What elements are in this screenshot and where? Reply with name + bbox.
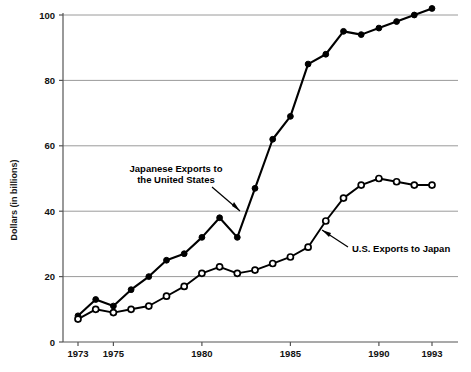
data-point (411, 182, 417, 188)
y-tick-label-40: 40 (44, 206, 55, 217)
data-point (341, 28, 347, 34)
y-tick-label-80: 80 (44, 75, 55, 86)
data-point (128, 287, 134, 293)
x-tick-label-1985: 1985 (280, 348, 302, 359)
data-point (376, 25, 382, 31)
x-tick-label-1975: 1975 (103, 348, 125, 359)
data-point (288, 113, 294, 119)
data-point (181, 283, 187, 289)
y-tick-label-20: 20 (44, 271, 55, 282)
data-point (305, 244, 311, 250)
data-point (110, 310, 116, 316)
x-tick-label-1980: 1980 (191, 348, 212, 359)
data-point (128, 306, 134, 312)
data-point (287, 254, 293, 260)
annotation-text-line1: U.S. Exports to Japan (352, 243, 450, 254)
annotation-text-line1: Japanese Exports to (130, 163, 223, 174)
data-point (429, 6, 435, 12)
y-tick-label-60: 60 (44, 140, 55, 151)
data-point (323, 51, 329, 57)
data-point (376, 176, 382, 182)
data-point (146, 303, 152, 309)
data-point (429, 182, 435, 188)
data-point (305, 61, 311, 67)
x-tick-label-1990: 1990 (368, 348, 389, 359)
chart-canvas: 020406080100 197319751980198519901993 Ja… (0, 0, 471, 372)
data-point (234, 234, 240, 240)
data-point (217, 264, 223, 270)
data-point (199, 234, 205, 240)
data-point (270, 261, 276, 267)
data-point (164, 293, 170, 299)
data-point (199, 270, 205, 276)
data-point (323, 218, 329, 224)
y-tick-label-0: 0 (50, 337, 55, 348)
data-point (394, 19, 400, 25)
data-point (358, 32, 364, 38)
data-point (181, 251, 187, 257)
y-tick-label-100: 100 (39, 10, 55, 21)
data-point (252, 267, 258, 273)
data-point (358, 182, 364, 188)
data-point (93, 306, 99, 312)
data-point (341, 195, 347, 201)
annotation-text-line2: the United States (137, 174, 215, 185)
data-point (217, 215, 223, 221)
data-point (146, 274, 152, 280)
chart-background (0, 0, 471, 372)
y-axis-title: Dollars (in billions) (9, 159, 19, 240)
data-point (270, 136, 276, 142)
data-point (394, 179, 400, 185)
data-point (164, 257, 170, 263)
exports-line-chart: 020406080100 197319751980198519901993 Ja… (0, 0, 471, 372)
data-point (93, 297, 99, 303)
x-tick-label-1993: 1993 (421, 348, 442, 359)
data-point (411, 12, 417, 18)
data-point (234, 270, 240, 276)
data-point (75, 316, 81, 322)
data-point (252, 185, 258, 191)
x-tick-label-1973: 1973 (67, 348, 88, 359)
data-point (111, 303, 117, 309)
